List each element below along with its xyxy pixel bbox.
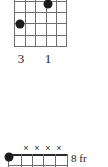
chord-diagram-bottom: × × × × 8 fr xyxy=(0,140,108,167)
barre-dot-string1 xyxy=(5,153,14,162)
mute-marker-string4: × xyxy=(34,144,39,153)
nut-line xyxy=(9,154,67,156)
chord-diagram-top: 3 1 xyxy=(0,0,108,72)
finger-number-3: 3 xyxy=(18,52,25,65)
mute-marker-string6: × xyxy=(56,144,61,153)
finger-dot-string5 xyxy=(44,0,53,9)
finger-number-1: 1 xyxy=(45,52,52,65)
finger-dot-string2 xyxy=(16,20,25,29)
mute-marker-string3: × xyxy=(23,144,28,153)
mute-marker-string5: × xyxy=(45,144,50,153)
fret-line-4 xyxy=(15,35,66,36)
fret-line-2 xyxy=(15,12,66,13)
fret-position-label: 8 fr xyxy=(71,153,87,164)
fret-line-1 xyxy=(15,1,66,2)
fretboard-grid-bottom xyxy=(8,154,68,167)
fret-line-1 xyxy=(9,165,67,166)
